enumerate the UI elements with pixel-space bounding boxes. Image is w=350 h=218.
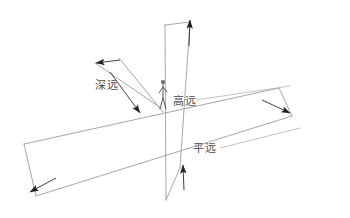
plane-left-edge <box>24 144 36 196</box>
pingyuan-plane <box>24 88 292 196</box>
person-head <box>161 80 165 84</box>
plane-far-edge <box>24 88 279 144</box>
shenyuan-line-lower <box>119 58 163 112</box>
axis-label-pingyuan: 平远 <box>193 143 216 154</box>
axis-label-gaoyuan: 高远 <box>173 96 196 107</box>
shenyuan-arrow-upleft <box>96 60 120 63</box>
gaoyuan-cap-bottom <box>166 168 180 200</box>
gaoyuan-axis <box>165 22 190 200</box>
plane-right-edge <box>279 88 292 116</box>
perspective-diagram <box>0 0 350 218</box>
gaoyuan-arrow-up <box>189 20 190 46</box>
person-arm-left <box>159 87 163 93</box>
plane-near-edge <box>36 116 292 196</box>
gaoyuan-leader <box>196 86 290 100</box>
gaoyuan-cap-top <box>165 22 190 25</box>
pingyuan-leader <box>220 128 300 148</box>
gaoyuan-arrow-down <box>183 165 184 190</box>
axis-label-shenyuan: 深远 <box>95 80 118 91</box>
diagram-canvas: 深远 高远 平远 <box>0 0 350 218</box>
gaoyuan-line-left <box>165 25 166 200</box>
person-leg-left <box>160 98 163 109</box>
leader-lines <box>196 86 300 148</box>
pingyuan-arrow-left <box>30 178 56 192</box>
